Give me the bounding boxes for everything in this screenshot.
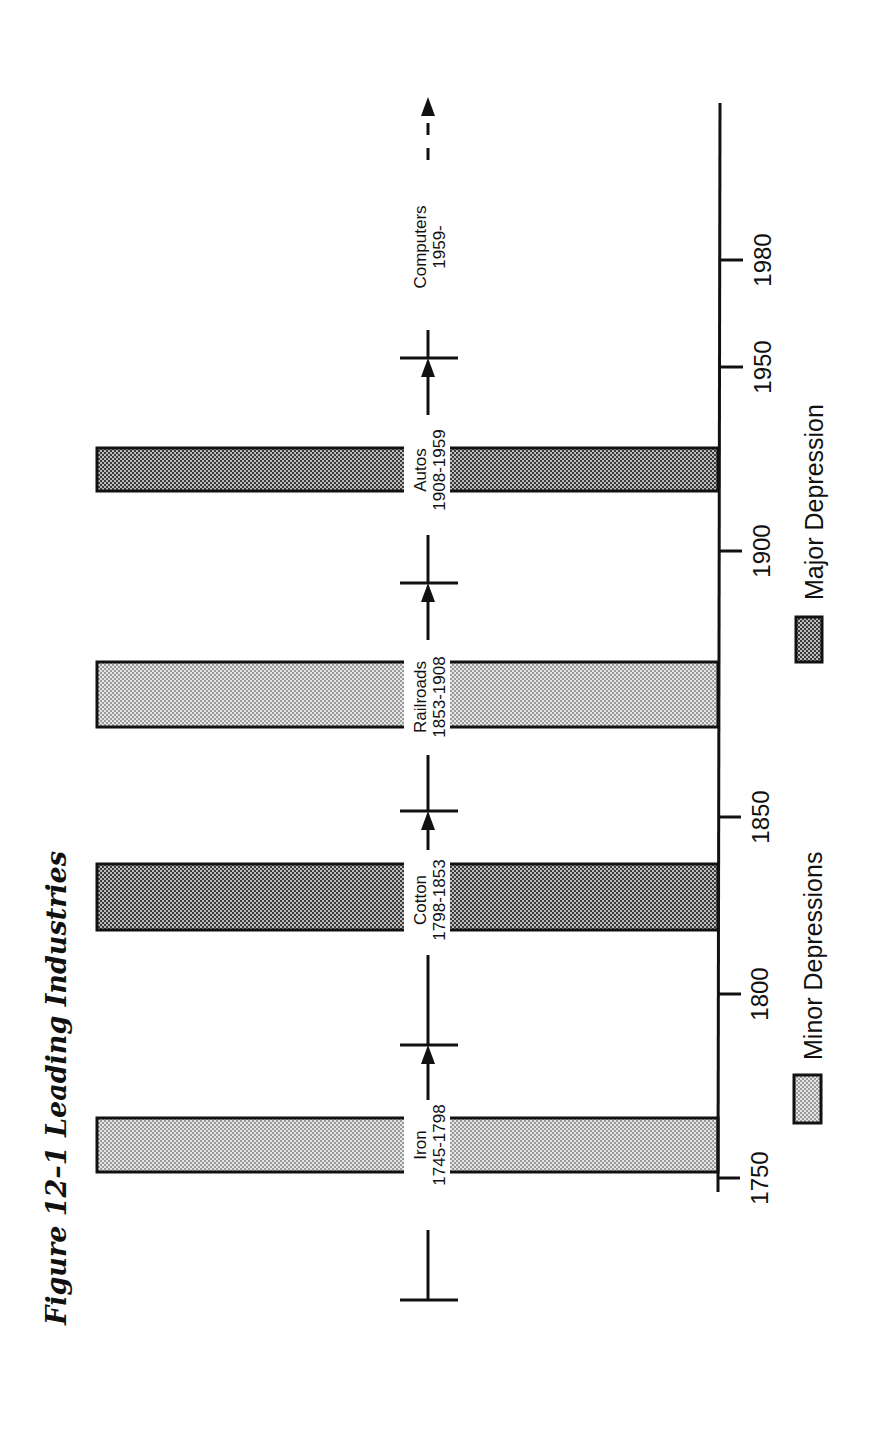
year-axis <box>718 103 743 1192</box>
tick-1980: 1980 <box>749 233 776 286</box>
period-computers-years: 1959- <box>430 225 449 268</box>
legend-swatch-minor <box>794 1075 821 1123</box>
period-computers-name: Computers <box>411 205 430 288</box>
tick-1750: 1750 <box>746 1151 773 1204</box>
axis-tick-labels: 1750 1800 1850 1900 1950 1980 <box>746 233 776 1204</box>
tick-1850: 1850 <box>747 790 774 843</box>
legend-label-minor: Minor Depressions <box>799 852 827 1060</box>
leading-industries-figure: Figure 12–1 Leading Industries <box>0 0 870 1456</box>
period-railroads-name: Railroads <box>411 661 430 733</box>
period-cotton-name: Cotton <box>411 875 430 925</box>
period-iron-name: Iron <box>411 1130 430 1159</box>
legend-swatch-major <box>796 617 822 662</box>
period-iron-years: 1745-1798 <box>430 1104 449 1185</box>
period-autos-name: Autos <box>411 448 430 491</box>
tick-1900: 1900 <box>748 524 775 577</box>
legend-label-major: Major Depression <box>800 404 828 600</box>
legend: Minor Depressions Major Depression <box>794 404 828 1123</box>
tick-1950: 1950 <box>749 340 776 393</box>
period-autos-years: 1908-1959 <box>430 429 449 510</box>
period-railroads-years: 1853-1908 <box>430 656 449 737</box>
figure-title: Figure 12–1 Leading Industries <box>41 851 72 1326</box>
period-cotton-years: 1798-1853 <box>430 859 449 940</box>
tick-1800: 1800 <box>746 967 773 1020</box>
period-labels: Iron 1745-1798 Cotton 1798-1853 Railroad… <box>411 205 449 1185</box>
